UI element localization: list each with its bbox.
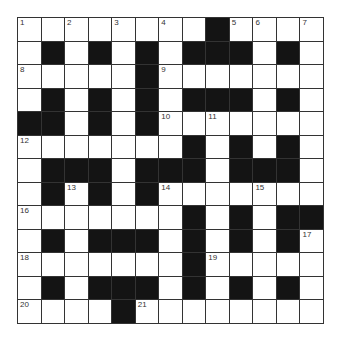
answer-cell[interactable] (136, 253, 159, 276)
answer-cell[interactable]: 15 (253, 183, 276, 206)
answer-cell[interactable] (89, 136, 112, 159)
answer-cell[interactable] (159, 206, 182, 229)
answer-cell[interactable] (277, 18, 300, 41)
answer-cell[interactable] (300, 65, 323, 88)
answer-cell[interactable] (300, 89, 323, 112)
answer-cell[interactable]: 18 (18, 253, 41, 276)
answer-cell[interactable]: 7 (300, 18, 323, 41)
answer-cell[interactable] (65, 277, 88, 300)
answer-cell[interactable] (112, 136, 135, 159)
answer-cell[interactable] (277, 253, 300, 276)
answer-cell[interactable] (277, 112, 300, 135)
answer-cell[interactable] (159, 277, 182, 300)
answer-cell[interactable] (65, 89, 88, 112)
answer-cell[interactable] (253, 277, 276, 300)
answer-cell[interactable] (42, 18, 65, 41)
answer-cell[interactable] (89, 253, 112, 276)
answer-cell[interactable]: 17 (300, 230, 323, 253)
answer-cell[interactable] (253, 65, 276, 88)
answer-cell[interactable]: 4 (159, 18, 182, 41)
answer-cell[interactable] (42, 136, 65, 159)
answer-cell[interactable] (300, 183, 323, 206)
answer-cell[interactable] (159, 136, 182, 159)
answer-cell[interactable] (112, 159, 135, 182)
answer-cell[interactable] (300, 112, 323, 135)
answer-cell[interactable] (18, 159, 41, 182)
answer-cell[interactable] (136, 18, 159, 41)
answer-cell[interactable]: 8 (18, 65, 41, 88)
answer-cell[interactable] (18, 42, 41, 65)
answer-cell[interactable]: 9 (159, 65, 182, 88)
answer-cell[interactable]: 1 (18, 18, 41, 41)
answer-cell[interactable] (159, 230, 182, 253)
answer-cell[interactable] (206, 230, 229, 253)
answer-cell[interactable] (65, 300, 88, 323)
answer-cell[interactable]: 20 (18, 300, 41, 323)
answer-cell[interactable] (300, 277, 323, 300)
answer-cell[interactable]: 10 (159, 112, 182, 135)
answer-cell[interactable] (183, 18, 206, 41)
answer-cell[interactable] (253, 206, 276, 229)
answer-cell[interactable] (65, 206, 88, 229)
answer-cell[interactable] (253, 89, 276, 112)
answer-cell[interactable] (136, 136, 159, 159)
answer-cell[interactable] (206, 65, 229, 88)
answer-cell[interactable] (18, 183, 41, 206)
answer-cell[interactable] (230, 253, 253, 276)
answer-cell[interactable] (112, 65, 135, 88)
answer-cell[interactable] (42, 65, 65, 88)
answer-cell[interactable]: 12 (18, 136, 41, 159)
answer-cell[interactable] (159, 42, 182, 65)
answer-cell[interactable]: 21 (136, 300, 159, 323)
answer-cell[interactable] (159, 253, 182, 276)
answer-cell[interactable] (112, 253, 135, 276)
answer-cell[interactable] (136, 206, 159, 229)
answer-cell[interactable]: 16 (18, 206, 41, 229)
answer-cell[interactable] (277, 183, 300, 206)
answer-cell[interactable] (18, 277, 41, 300)
answer-cell[interactable] (300, 300, 323, 323)
answer-cell[interactable]: 14 (159, 183, 182, 206)
answer-cell[interactable] (230, 65, 253, 88)
answer-cell[interactable]: 11 (206, 112, 229, 135)
answer-cell[interactable] (230, 183, 253, 206)
answer-cell[interactable] (230, 112, 253, 135)
answer-cell[interactable] (89, 300, 112, 323)
answer-cell[interactable] (65, 230, 88, 253)
answer-cell[interactable] (89, 206, 112, 229)
answer-cell[interactable] (89, 65, 112, 88)
answer-cell[interactable] (300, 136, 323, 159)
answer-cell[interactable]: 6 (253, 18, 276, 41)
answer-cell[interactable] (112, 183, 135, 206)
answer-cell[interactable] (112, 206, 135, 229)
answer-cell[interactable] (230, 300, 253, 323)
answer-cell[interactable]: 19 (206, 253, 229, 276)
answer-cell[interactable] (183, 300, 206, 323)
answer-cell[interactable] (253, 42, 276, 65)
answer-cell[interactable] (206, 159, 229, 182)
answer-cell[interactable] (183, 183, 206, 206)
answer-cell[interactable] (112, 112, 135, 135)
answer-cell[interactable]: 3 (112, 18, 135, 41)
answer-cell[interactable] (253, 300, 276, 323)
answer-cell[interactable] (159, 89, 182, 112)
answer-cell[interactable] (65, 112, 88, 135)
answer-cell[interactable] (206, 300, 229, 323)
answer-cell[interactable] (253, 230, 276, 253)
answer-cell[interactable]: 2 (65, 18, 88, 41)
answer-cell[interactable] (159, 300, 182, 323)
answer-cell[interactable] (42, 253, 65, 276)
answer-cell[interactable] (300, 42, 323, 65)
answer-cell[interactable] (89, 18, 112, 41)
answer-cell[interactable] (206, 183, 229, 206)
answer-cell[interactable] (18, 230, 41, 253)
answer-cell[interactable] (277, 65, 300, 88)
answer-cell[interactable] (183, 65, 206, 88)
answer-cell[interactable] (18, 89, 41, 112)
answer-cell[interactable] (206, 206, 229, 229)
answer-cell[interactable] (253, 112, 276, 135)
answer-cell[interactable] (253, 253, 276, 276)
answer-cell[interactable] (253, 136, 276, 159)
answer-cell[interactable] (65, 136, 88, 159)
answer-cell[interactable] (300, 253, 323, 276)
